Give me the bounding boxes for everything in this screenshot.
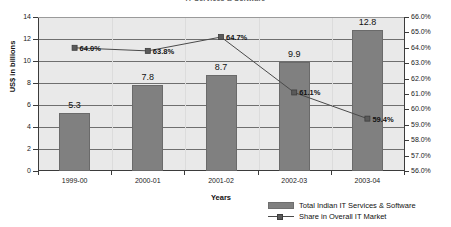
x-axis-tick: [331, 171, 332, 175]
y-axis-left-tick-label: 14: [2, 13, 31, 20]
y-axis-right-tick: [404, 63, 409, 64]
x-axis-tick-label: 1999-00: [62, 177, 88, 184]
y-axis-left-tick-label: 0: [2, 167, 31, 174]
legend-item-line: Share in Overall IT Market: [268, 211, 448, 222]
y-axis-right-tick: [404, 156, 409, 157]
legend-line-swatch-icon: [268, 213, 294, 220]
x-axis-tick: [184, 171, 185, 175]
y-axis-right-tick-label: 64.0%: [411, 44, 445, 51]
line-point-label: 64.0%: [80, 43, 101, 52]
y-axis-right-tick-label: 61.0%: [411, 90, 445, 97]
line-point-label: 61.1%: [299, 88, 320, 97]
y-axis-right-tick-label: 65.0%: [411, 28, 445, 35]
y-axis-right-tick: [404, 109, 409, 110]
y-axis-left-tick-label: 12: [2, 35, 31, 42]
y-axis-right-tick-label: 62.0%: [411, 75, 445, 82]
y-axis-right-tick-label: 56.0%: [411, 167, 445, 174]
line-point-label: 64.7%: [226, 33, 247, 42]
chart-legend: Total Indian IT Services & Software Shar…: [268, 200, 448, 222]
y-axis-right-tick-label: 59.0%: [411, 121, 445, 128]
x-axis-tick-label: 2000-01: [135, 177, 161, 184]
line-series-svg: [38, 17, 404, 171]
x-axis-tick-label: 2001-02: [208, 177, 234, 184]
line-point-label: 59.4%: [372, 114, 393, 123]
y-axis-right-tick-label: 60.0%: [411, 105, 445, 112]
x-axis-tick-label: 2002-03: [281, 177, 307, 184]
y-axis-left-tick-label: 8: [2, 79, 31, 86]
chart-container: IT Services & Software US$ in billions 0…: [0, 0, 451, 227]
y-axis-right-tick-label: 58.0%: [411, 136, 445, 143]
chart-title: IT Services & Software: [0, 0, 451, 3]
x-axis-tick-label: 2003-04: [355, 177, 381, 184]
y-axis-right-tick: [404, 79, 409, 80]
y-axis-right-tick: [404, 125, 409, 126]
legend-bar-swatch-icon: [268, 202, 294, 209]
y-axis-right-tick: [404, 94, 409, 95]
x-axis-tick: [38, 171, 39, 175]
legend-label-bar: Total Indian IT Services & Software: [299, 201, 416, 210]
y-axis-right-tick: [404, 17, 409, 18]
y-axis-right-tick: [404, 48, 409, 49]
y-axis-right-tick: [404, 140, 409, 141]
y-axis-left-tick-label: 2: [2, 145, 31, 152]
x-axis-tick: [258, 171, 259, 175]
y-axis-right-tick-label: 66.0%: [411, 13, 445, 20]
y-axis-right-tick: [404, 32, 409, 33]
y-axis-left-tick-label: 10: [2, 57, 31, 64]
y-axis-left-tick-label: 4: [2, 123, 31, 130]
x-axis-tick: [404, 171, 405, 175]
legend-label-line: Share in Overall IT Market: [299, 212, 386, 221]
legend-item-bar: Total Indian IT Services & Software: [268, 200, 448, 211]
y-axis-right-tick-label: 63.0%: [411, 59, 445, 66]
x-axis-tick: [111, 171, 112, 175]
y-axis-left-tick-label: 6: [2, 101, 31, 108]
line-point-label: 63.8%: [153, 46, 174, 55]
y-axis-right-tick-label: 57.0%: [411, 152, 445, 159]
